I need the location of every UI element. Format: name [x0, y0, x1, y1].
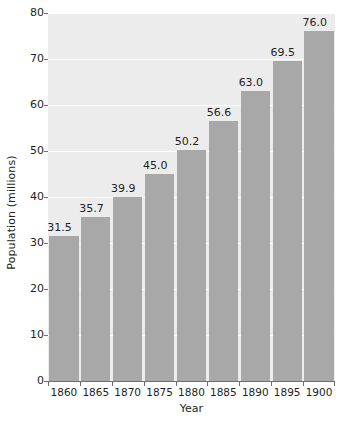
bar-value-label: 63.0 [239, 77, 264, 89]
x-axis-title: Year [48, 402, 335, 416]
bar-value-label: 31.5 [47, 222, 72, 234]
bar-value-label: 76.0 [302, 17, 327, 29]
x-tick-label: 1890 [239, 386, 271, 399]
y-axis-tick-labels: 01020304050607080 [14, 0, 44, 425]
x-tick-label: 1885 [207, 386, 239, 399]
y-tick-label: 70 [18, 54, 44, 64]
y-tick-label: 30 [18, 238, 44, 248]
bar [113, 197, 142, 381]
bar [177, 150, 206, 381]
x-tick-label: 1900 [303, 386, 335, 399]
bar-value-label: 45.0 [143, 160, 168, 172]
y-tick-label: 60 [18, 100, 44, 110]
bar [81, 217, 110, 381]
bar [145, 174, 174, 381]
bar-value-label: 56.6 [207, 107, 232, 119]
y-tick-label: 0 [18, 376, 44, 386]
bar-value-label: 69.5 [271, 47, 296, 59]
x-tick-label: 1865 [80, 386, 112, 399]
bar [209, 121, 238, 381]
x-axis-tick-labels: 186018651870187518801885189018951900 [48, 386, 335, 400]
y-tick-label: 20 [18, 284, 44, 294]
plot-area: 31.535.739.945.050.256.663.069.576.0 [48, 13, 335, 381]
x-tick-label: 1880 [176, 386, 208, 399]
bar [273, 61, 302, 381]
x-tick-label: 1895 [271, 386, 303, 399]
bar-value-label: 39.9 [111, 183, 136, 195]
x-tick-label: 1870 [112, 386, 144, 399]
y-tick-label: 50 [18, 146, 44, 156]
bar [304, 31, 333, 381]
y-tick-label: 40 [18, 192, 44, 202]
bar-chart-figure: Population (millions) 01020304050607080 … [0, 0, 342, 425]
x-tick-label: 1875 [144, 386, 176, 399]
x-tick-label: 1860 [48, 386, 80, 399]
bar [49, 236, 78, 381]
bar-value-label: 35.7 [79, 203, 104, 215]
y-tick-label: 80 [18, 8, 44, 18]
bar-series [48, 13, 335, 381]
bar-value-label: 50.2 [175, 136, 200, 148]
y-tick-label: 10 [18, 330, 44, 340]
bar [241, 91, 270, 381]
